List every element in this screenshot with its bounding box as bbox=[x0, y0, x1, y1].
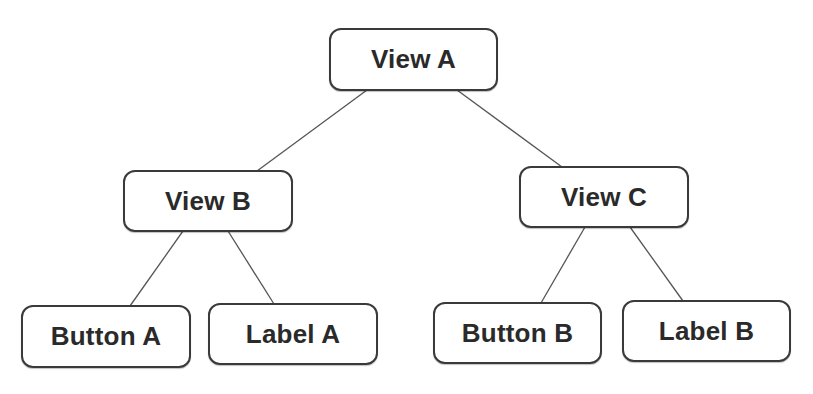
edge-view-b-button-a bbox=[130, 231, 183, 306]
node-label: View B bbox=[165, 186, 251, 217]
view-hierarchy-diagram: View A View B View C Button A Label A Bu… bbox=[0, 0, 813, 394]
edge-view-a-view-b bbox=[257, 90, 367, 171]
node-label: Button B bbox=[462, 318, 573, 349]
node-label: Button A bbox=[51, 321, 161, 352]
node-label-b: Label B bbox=[622, 300, 791, 362]
node-label: View A bbox=[371, 44, 456, 75]
node-button-b: Button B bbox=[433, 302, 602, 364]
node-view-c: View C bbox=[519, 166, 689, 228]
edge-view-c-button-b bbox=[541, 227, 585, 303]
node-button-a: Button A bbox=[21, 305, 191, 368]
node-view-a: View A bbox=[329, 28, 498, 91]
node-view-b: View B bbox=[123, 170, 293, 232]
edge-view-c-label-b bbox=[630, 227, 683, 301]
node-label: Label B bbox=[659, 316, 754, 347]
edge-view-b-label-a bbox=[228, 231, 274, 304]
node-label: View C bbox=[561, 182, 647, 213]
edge-view-a-view-c bbox=[457, 90, 562, 167]
node-label-a: Label A bbox=[208, 303, 378, 365]
node-label: Label A bbox=[246, 319, 340, 350]
